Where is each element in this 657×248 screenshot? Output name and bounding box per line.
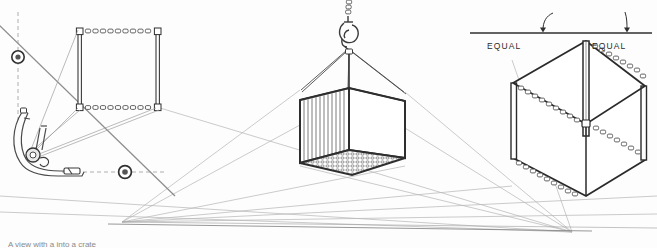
hoist-chain (346, 0, 352, 14)
figure-caption: A view with a into a crate (8, 240, 96, 248)
chain-run-bottom (85, 106, 150, 110)
crate-sling-legs (301, 50, 406, 94)
technical-illustration (0, 0, 657, 248)
suspended-crate-panel (300, 0, 406, 175)
cube-center-junction (582, 120, 590, 127)
corner-convergence-lines (30, 30, 159, 158)
cube-left-post (511, 83, 517, 159)
chain-bordered-rectangle (76, 28, 161, 111)
lower-trace-marker (119, 166, 132, 179)
sling-ring-fitting (26, 148, 40, 162)
sling-hardware-assembly (14, 108, 84, 176)
horizon-trace (108, 222, 657, 231)
cube-right-post (641, 86, 647, 160)
suspended-crate (300, 88, 405, 175)
illustration-canvas: EQUAL EQUAL A view with a into a crate (0, 0, 657, 248)
equal-label-left: EQUAL (487, 41, 521, 51)
equal-chain-cube-panel (470, 12, 652, 196)
chain-run-top (85, 29, 150, 33)
upper-trace-marker (12, 51, 24, 63)
open-chain-cube (511, 41, 647, 196)
sling-collar (346, 49, 353, 54)
equal-leader-arrows (543, 12, 627, 30)
sling-geometry-panel (0, 12, 175, 196)
crane-hook (340, 16, 359, 50)
equal-label-right: EQUAL (592, 41, 626, 51)
